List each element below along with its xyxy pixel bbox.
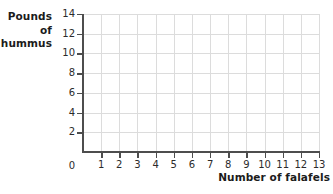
- blank-coordinate-grid-figure: Pounds of hummus 24681012140 Number of f…: [0, 0, 333, 194]
- x-axis-tick-mark: [265, 152, 266, 158]
- gridline-horizontal: [83, 14, 319, 15]
- x-axis-tick-label: 13: [308, 160, 330, 170]
- gridline-horizontal: [83, 93, 319, 94]
- y-axis-title: Pounds of hummus: [0, 10, 52, 51]
- y-axis-tick-label: 2: [53, 127, 75, 137]
- x-axis-tick-mark: [156, 152, 157, 158]
- y-axis-tick-mark: [77, 73, 83, 74]
- y-axis-tick-mark: [77, 14, 83, 15]
- y-axis-tick-label: 8: [53, 68, 75, 78]
- x-axis-tick-mark: [210, 152, 211, 158]
- y-axis-title-line-2: of: [0, 24, 52, 38]
- x-axis-tick-mark: [137, 152, 138, 158]
- gridline-horizontal: [83, 34, 319, 35]
- gridline-vertical: [319, 14, 320, 152]
- x-axis-line: [82, 151, 320, 153]
- y-axis-tick-label: 14: [53, 9, 75, 19]
- y-axis-tick-mark: [77, 34, 83, 35]
- x-axis-tick-mark: [283, 152, 284, 158]
- x-axis-tick-mark: [174, 152, 175, 158]
- x-axis-tick-mark: [319, 152, 320, 158]
- x-axis-tick-mark: [228, 152, 229, 158]
- gridline-horizontal: [83, 53, 319, 54]
- x-axis-tick-mark: [246, 152, 247, 158]
- y-axis-title-line-3: hummus: [0, 37, 52, 51]
- y-axis-tick-mark: [77, 113, 83, 114]
- y-axis-tick-mark: [77, 132, 83, 133]
- x-axis-tick-mark: [101, 152, 102, 158]
- x-axis-tick-mark: [119, 152, 120, 158]
- y-axis-tick-label: 10: [53, 48, 75, 58]
- x-axis-tick-mark: [192, 152, 193, 158]
- x-axis-title: Number of falafels: [180, 171, 330, 183]
- y-axis-origin-label: 0: [53, 161, 75, 171]
- y-axis-tick-label: 12: [53, 29, 75, 39]
- y-axis-tick-label-column: 24681012140: [50, 0, 75, 194]
- y-axis-title-line-1: Pounds: [0, 10, 52, 24]
- gridline-horizontal: [83, 73, 319, 74]
- y-axis-tick-label: 6: [53, 88, 75, 98]
- y-axis-tick-mark: [77, 53, 83, 54]
- gridline-horizontal: [83, 113, 319, 114]
- gridline-horizontal: [83, 132, 319, 133]
- y-axis-tick-mark: [77, 93, 83, 94]
- x-axis-tick-mark: [301, 152, 302, 158]
- plot-area: [83, 14, 319, 152]
- y-axis-tick-label: 4: [53, 108, 75, 118]
